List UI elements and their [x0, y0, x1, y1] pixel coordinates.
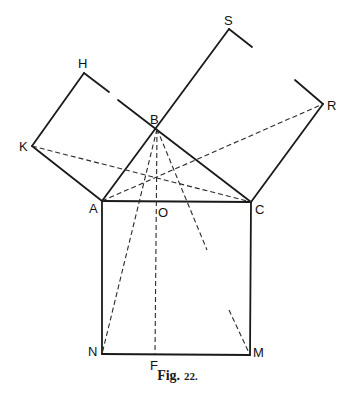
label-O: O — [158, 205, 168, 220]
line-KH — [32, 73, 84, 146]
dashed-lines — [32, 104, 323, 355]
label-C: C — [255, 202, 264, 217]
line-AC — [102, 201, 251, 202]
dashed-AR — [102, 104, 323, 201]
label-B: B — [150, 112, 159, 127]
caption-prefix: Fig. — [157, 368, 180, 383]
line-H-gap — [84, 73, 109, 92]
label-M: M — [253, 345, 264, 360]
label-R: R — [327, 98, 336, 113]
label-K: K — [19, 139, 28, 154]
dashed-BF — [155, 129, 157, 355]
line-CM — [250, 202, 251, 355]
line-NM — [102, 354, 250, 355]
line-S-stub — [229, 29, 252, 47]
dashed-B-partial — [157, 129, 207, 250]
solid-lines — [32, 29, 323, 355]
line-KA — [32, 146, 102, 201]
figure-caption: Fig.22. — [0, 368, 355, 384]
label-A: A — [89, 201, 98, 216]
point-labels: H K B S R A O C N M F — [19, 13, 336, 373]
caption-number: 22. — [184, 370, 198, 382]
label-H: H — [78, 56, 87, 71]
label-N: N — [88, 344, 97, 359]
dashed-M-partial — [229, 310, 250, 355]
label-S: S — [224, 13, 233, 28]
geometry-figure: H K B S R A O C N M F — [0, 0, 355, 404]
line-R-stub — [295, 80, 323, 104]
line-AS — [102, 29, 229, 201]
line-RC — [251, 104, 323, 202]
